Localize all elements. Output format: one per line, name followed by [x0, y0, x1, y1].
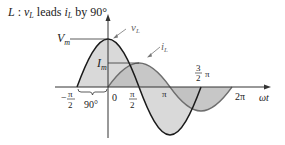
phase-label: 90° [84, 99, 98, 110]
tick-three-half-num: 3 [196, 63, 201, 73]
tick-pi-half-num: π [130, 89, 135, 99]
tick-pi-half-den: 2 [130, 100, 135, 110]
vL-label: vL [131, 21, 140, 35]
tick-zero: 0 [112, 92, 117, 103]
tick-three-half-pi: π [205, 69, 210, 79]
tick-pi: π [162, 89, 167, 99]
iL-label: iL [161, 40, 168, 54]
tick-neg-pi-half-num: π [68, 89, 73, 99]
tick-neg-sign: − [61, 92, 67, 103]
omega-t-label: ωt [259, 92, 269, 103]
vm-label: Vm [57, 31, 70, 47]
vL-pointer-arrow-icon [113, 34, 118, 39]
tick-two-pi: 2π [235, 91, 245, 102]
tick-neg-pi-half-den: 2 [68, 100, 73, 110]
title: L : vL leads iL by 90° [7, 5, 107, 20]
phase-diagram: L : vL leads iL by 90° Vm Im vL iL − π 2… [0, 0, 285, 145]
tick-three-half-den: 2 [196, 73, 201, 83]
phase-brace [78, 89, 107, 95]
x-axis-arrow-icon [264, 85, 271, 90]
